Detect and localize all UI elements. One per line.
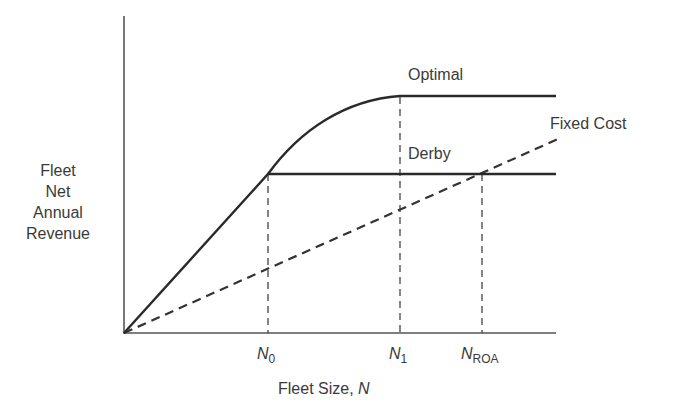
optimal-line: [268, 96, 556, 174]
y-axis-label: Fleet Net Annual Revenue: [0, 160, 116, 244]
x-axis-label: Fleet Size, N: [278, 380, 370, 398]
y-axis-label-line: Fleet: [0, 160, 116, 181]
optimal-label: Optimal: [408, 67, 463, 83]
x-tick-nroa: NROA: [461, 346, 499, 365]
derby-label: Derby: [408, 146, 451, 162]
x-tick-n0: N0: [257, 346, 275, 365]
fixed-cost-label: Fixed Cost: [550, 116, 626, 132]
derby-line: [124, 174, 556, 333]
fixed-cost-line: [124, 139, 558, 333]
x-tick-n1: N1: [389, 346, 407, 365]
y-axis-label-line: Annual: [0, 202, 116, 223]
y-axis-label-line: Net: [0, 181, 116, 202]
y-axis-label-line: Revenue: [0, 223, 116, 244]
